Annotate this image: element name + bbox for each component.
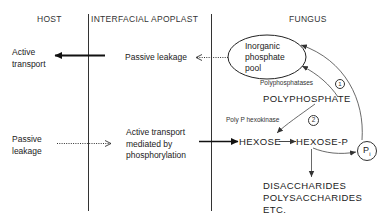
host-passive-leakage-label: Passive leakage xyxy=(12,134,42,157)
step-2-badge: 2 xyxy=(308,115,319,126)
hexose-p-label: HEXOSE-P xyxy=(296,137,348,147)
hexose-p-to-pi-arrow xyxy=(313,148,356,153)
polyphosphate-label: POLYPHOSPHATE xyxy=(263,94,351,104)
apoplast-passive-leakage-label: Passive leakage xyxy=(125,53,187,62)
pi-badge: Pi xyxy=(357,141,377,161)
apoplast-active-transport-label: Active transport mediated by phosphoryla… xyxy=(126,127,186,162)
hexose-label: HEXOSE xyxy=(239,137,281,147)
polyp-hexokinase-label: Poly P hexokinase xyxy=(226,117,279,124)
phosphate-pool-label: Inorganic phosphate pool xyxy=(245,41,285,74)
polyphosphatases-label: Polyphosphatases xyxy=(260,80,313,87)
column-header-apoplast: INTERFACIAL APOPLAST xyxy=(91,15,198,24)
products-label: DISACCHARIDES POLYSACCHARIDES ETC. xyxy=(263,180,362,216)
column-header-fungus: FUNGUS xyxy=(289,15,327,24)
step-1-badge: 1 xyxy=(335,79,345,89)
pi-subscript: i xyxy=(369,150,371,156)
column-header-host: HOST xyxy=(37,15,62,24)
host-active-transport-label: Active transport xyxy=(12,47,46,70)
